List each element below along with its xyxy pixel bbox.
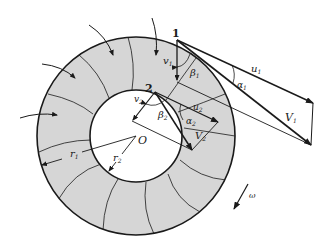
u1-label: u1	[251, 63, 261, 75]
rotation-arrow	[234, 184, 248, 209]
point-1-label: 1	[172, 27, 180, 40]
turbine-diagram: 1 2 O v1 β1 u1 α1 V1 v2 β2 u2 α2 V2 r1 r…	[0, 0, 331, 248]
V1-label: V1	[285, 111, 297, 124]
alpha1-label: α1	[237, 80, 247, 91]
alpha1-arc	[232, 65, 234, 83]
omega-label: ω	[249, 191, 256, 200]
point-2-label: 2	[145, 82, 153, 95]
center-O-label: O	[138, 134, 147, 147]
